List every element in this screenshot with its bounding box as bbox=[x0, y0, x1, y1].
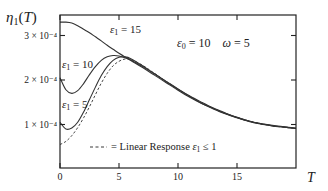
x-tick-label: 10 bbox=[173, 171, 183, 182]
y-axis-label: η1(T) bbox=[6, 9, 37, 27]
x-tick-label: 5 bbox=[117, 171, 122, 182]
series-line-1 bbox=[60, 55, 296, 128]
curve-label-eps5: ε1 = 5 bbox=[62, 98, 88, 112]
params-annotation: ε0 = 10ω = 5 bbox=[177, 36, 250, 51]
y-tick-label: 1 × 10⁻⁴ bbox=[24, 120, 57, 130]
curve-label-eps15: ε1 = 15 bbox=[110, 23, 142, 37]
y-tick-label: 3 × 10⁻⁴ bbox=[24, 31, 57, 41]
line-chart: 0510151 × 10⁻⁴2 × 10⁻⁴3 × 10⁻⁴ η1(T) T ε… bbox=[0, 0, 328, 191]
series-line-2 bbox=[60, 57, 296, 130]
legend-linear-response: = Linear Response ε1 ≤ 1 bbox=[111, 141, 217, 154]
y-tick-label: 2 × 10⁻⁴ bbox=[24, 75, 57, 85]
curve-label-eps10: ε1 = 10 bbox=[62, 58, 94, 72]
x-axis-label: T bbox=[307, 170, 316, 185]
x-tick-label: 15 bbox=[232, 171, 242, 182]
series-line-3 bbox=[60, 59, 296, 145]
x-tick-label: 0 bbox=[58, 171, 63, 182]
